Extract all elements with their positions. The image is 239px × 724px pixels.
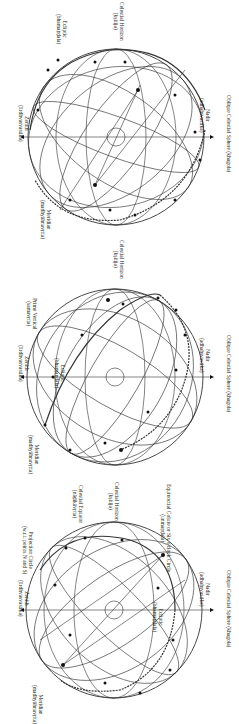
horizon-label: Celestial Horizon(kṣitija) (113, 240, 125, 279)
panel-top: Zenith(ūrdhvasvastika) Nadir(adhaḥsvasti… (0, 0, 239, 240)
panel-middle: Zenith(ūrdhvasvastika) Nadir(adhaḥsvasti… (0, 240, 239, 480)
caption-label: Oblique Celestial Sphere (khagola) (226, 335, 232, 412)
ecliptic-label: Ecliptic(bhamaṇḍala) (54, 358, 66, 388)
prime-vertical-label: Prime Vertical(samavṛtta) (26, 298, 38, 330)
equinoctial-colure-label: Equinoctial Colure or Six o'clock Circle… (160, 484, 172, 572)
zenith-label: Zenith(ūrdhvasvastika) (18, 105, 30, 142)
ecliptic-label: Ecliptic(bhamaṇḍala) (152, 602, 164, 632)
horizon-label: Celestial Horizon(kṣitija) (108, 482, 120, 521)
nadir-label: Nadir(adhaḥsvastika) (199, 572, 211, 607)
celestial-equator-label: Celestial Equator(nāḍikāvṛtta) (72, 485, 84, 523)
meridian-label: Meridian(madhyāhnavṛtta) (32, 685, 44, 724)
nadir-label: Nadir(adhaḥsvastika) (199, 98, 211, 133)
zenith-label: Zenith(ūrdhvasvastika) (18, 580, 30, 617)
panel-bottom: Zenith(ūrdhvasvastika) Nadir(adhaḥsvasti… (0, 480, 239, 720)
zenith-label: Zenith(ūrdhvasvastika) (18, 345, 30, 382)
horizon-label: Celestial Horizon(kṣitija) (113, 2, 125, 41)
meridian-label: Meridian(madhyāhnavṛtta) (28, 435, 40, 474)
caption-label: Oblique Celestial Sphere (khagola) (226, 95, 232, 172)
ecliptic-label: Ecliptic(bhamaṇḍala) (56, 14, 68, 44)
nadir-label: Nadir(adhaḥsvastika) (199, 338, 211, 373)
projection-circle-label: Projection Circle(w.r.t. points N and S) (22, 526, 34, 574)
meridian-label: Meridian(madhyāhnavṛtta) (40, 200, 52, 239)
caption-label: Oblique Celestial Sphere (khagola) (226, 570, 232, 647)
